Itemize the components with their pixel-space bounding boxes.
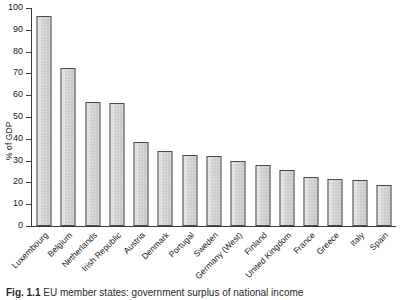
x-axis-tick-labels: LuxembourgBelgiumNetherlandsIrish Republ… (31, 228, 396, 288)
bar-slot (347, 8, 371, 226)
y-axis-tick: 60 (26, 95, 31, 96)
bar[interactable] (37, 16, 52, 226)
y-axis-tick: 0 (26, 226, 31, 227)
y-axis-tick: 30 (26, 161, 31, 162)
bar-slot (153, 8, 177, 226)
x-axis-tick-label-slot: Irish Republic (105, 228, 129, 288)
bar-slot (129, 8, 153, 226)
y-axis-tick: 10 (26, 204, 31, 205)
bar-slot (202, 8, 226, 226)
bar-slot (32, 8, 56, 226)
x-axis-tick-label-slot: Germany (West) (226, 228, 250, 288)
y-axis-tick-label: 60 (13, 89, 23, 99)
y-axis-tick: 90 (26, 30, 31, 31)
y-axis-tick-label: 80 (13, 46, 23, 56)
y-axis-tick-label: 100 (8, 2, 23, 12)
bar-slot (56, 8, 80, 226)
x-axis-tick-label-text: Spain (367, 230, 389, 252)
caption-text: EU member states: government surplus of … (43, 287, 303, 298)
bar-slot (105, 8, 129, 226)
y-axis-tick: 100 (26, 8, 31, 9)
bar-series (32, 8, 396, 226)
y-axis-tick-label: 30 (13, 155, 23, 165)
figure-bar-chart: % of GDP 0102030405060708090100 Luxembou… (0, 0, 408, 300)
x-axis-tick-label-text: Luxembourg (10, 230, 50, 270)
y-axis-tick: 40 (26, 139, 31, 140)
y-axis-tick-label: 20 (13, 176, 23, 186)
figure-caption: Fig. 1.1 EU member states: government su… (6, 287, 406, 298)
bar-slot (226, 8, 250, 226)
y-axis-tick-label: 70 (13, 67, 23, 77)
y-axis-tick-label: 0 (18, 220, 23, 230)
bar-slot (299, 8, 323, 226)
y-axis-tick: 50 (26, 117, 31, 118)
y-axis-tick-label: 40 (13, 133, 23, 143)
x-axis-tick-label-slot: Spain (372, 228, 396, 288)
bar[interactable] (85, 102, 100, 226)
y-axis-tick: 70 (26, 73, 31, 74)
bar-slot (178, 8, 202, 226)
x-axis-tick-label-slot: Greece (323, 228, 347, 288)
y-axis-tick-label: 10 (13, 198, 23, 208)
x-axis-tick-label-text: Italy (348, 230, 366, 248)
bar-slot (372, 8, 396, 226)
y-axis-tick-label: 50 (13, 111, 23, 121)
plot-area: 0102030405060708090100 (31, 8, 396, 227)
y-axis-tick: 80 (26, 52, 31, 53)
y-axis-tick-label: 90 (13, 24, 23, 34)
x-axis-tick-label-slot: United Kingdom (275, 228, 299, 288)
bar-slot (81, 8, 105, 226)
caption-label: Fig. 1.1 (6, 287, 40, 298)
x-axis-tick-label-slot: Italy (347, 228, 371, 288)
x-axis-tick-label-slot: France (299, 228, 323, 288)
bar[interactable] (376, 185, 391, 226)
y-axis-tick: 20 (26, 182, 31, 183)
bar-slot (250, 8, 274, 226)
